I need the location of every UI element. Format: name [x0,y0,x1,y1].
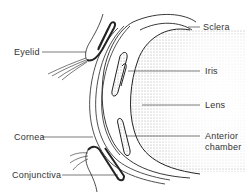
lens-shape [131,29,246,174]
label-conjunctiva: Conjunctiva [12,170,61,180]
label-eyelid: Eyelid [14,47,40,57]
iris-shape [112,52,130,155]
upper-eyelid-shape [48,14,115,80]
label-anterior-chamber-line2: chamber [205,142,241,152]
lower-eyelid-shape [70,147,124,192]
label-cornea: Cornea [14,132,45,142]
label-iris: Iris [205,66,218,76]
label-lens: Lens [205,100,225,110]
label-anterior-chamber-line1: Anterior [205,131,238,141]
label-sclera: Sclera [203,22,230,32]
